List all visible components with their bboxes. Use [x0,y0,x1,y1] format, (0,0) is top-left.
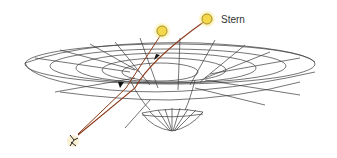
eye-icon [67,135,79,147]
arrow-icon [118,82,124,88]
star-label: Stern [221,14,245,25]
arrow-icon [154,54,160,60]
lensing-diagram [0,0,337,158]
star-icon [198,10,216,28]
apparent-star-icon [153,22,171,40]
spacetime-grid [25,38,315,131]
